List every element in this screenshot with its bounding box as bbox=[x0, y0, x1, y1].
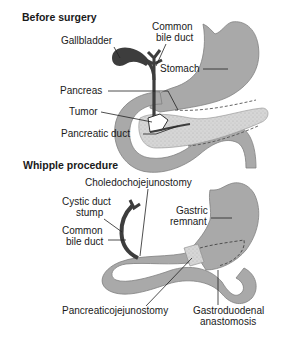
label-pancreaticojejunostomy: Pancreaticojejunostomy bbox=[62, 305, 168, 316]
label-common-bile-duct-after-1: Common bbox=[62, 225, 103, 236]
gallbladder-shape bbox=[112, 47, 150, 66]
label-pancreas: Pancreas bbox=[60, 85, 102, 96]
label-gastric-remnant-1: Gastric bbox=[176, 205, 208, 216]
before-surgery-panel: Before surgery Gallbladder Common bile d… bbox=[22, 11, 268, 172]
before-surgery-title: Before surgery bbox=[22, 11, 97, 23]
label-cystic-duct-stump-1: Cystic duct bbox=[62, 196, 111, 207]
label-common-bile-duct-2: bile duct bbox=[156, 32, 193, 43]
label-common-bile-duct-1: Common bbox=[152, 21, 193, 32]
whipple-procedure-panel: Whipple procedure Choledochojejunostomy … bbox=[23, 159, 264, 327]
label-gastroduodenal-2: anastomosis bbox=[200, 316, 256, 327]
common-bile-duct-after bbox=[121, 206, 138, 258]
label-common-bile-duct-after-2: bile duct bbox=[66, 236, 103, 247]
label-gallbladder: Gallbladder bbox=[61, 35, 113, 46]
label-pancreatic-duct: Pancreatic duct bbox=[61, 128, 130, 139]
label-tumor: Tumor bbox=[69, 106, 98, 117]
label-choledochojejunostomy: Choledochojejunostomy bbox=[85, 177, 192, 188]
leader-cystic-duct-stump bbox=[104, 219, 122, 232]
label-gastric-remnant-2: remnant bbox=[170, 216, 207, 227]
whipple-title: Whipple procedure bbox=[23, 159, 118, 171]
label-cystic-duct-stump-2: stump bbox=[76, 207, 104, 218]
label-gastroduodenal-1: Gastroduodenal bbox=[193, 305, 264, 316]
label-stomach: Stomach bbox=[160, 63, 199, 74]
whipple-diagram: Before surgery Gallbladder Common bile d… bbox=[0, 0, 286, 338]
leader-choledochojejunostomy bbox=[140, 189, 148, 256]
